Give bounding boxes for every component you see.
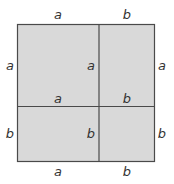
right-label-a: a bbox=[158, 58, 166, 73]
square-diagram: a b a b a b a b a b a b bbox=[0, 0, 174, 184]
bottom-label-b: b bbox=[123, 164, 131, 179]
top-label-a: a bbox=[54, 7, 62, 22]
top-label-b: b bbox=[123, 7, 131, 22]
left-label-b: b bbox=[6, 126, 14, 141]
inner-vertical-label-a: a bbox=[87, 58, 95, 73]
bottom-label-a: a bbox=[54, 164, 62, 179]
left-label-a: a bbox=[6, 58, 14, 73]
right-label-b: b bbox=[158, 126, 166, 141]
inner-horizontal-label-a: a bbox=[54, 91, 62, 106]
inner-vertical-label-b: b bbox=[87, 126, 95, 141]
inner-horizontal-label-b: b bbox=[123, 91, 131, 106]
